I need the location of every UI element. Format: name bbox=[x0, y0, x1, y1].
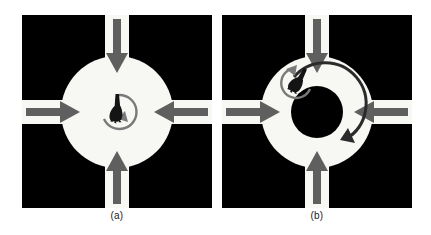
panel-a-caption: (a) bbox=[22, 210, 212, 221]
central-island bbox=[291, 86, 343, 138]
panel-a bbox=[22, 15, 212, 208]
panel-b-caption: (b) bbox=[222, 210, 412, 221]
panel-a-graphic bbox=[22, 15, 212, 208]
panel-b bbox=[222, 15, 412, 208]
figure-container: (a) bbox=[0, 0, 431, 235]
panel-b-graphic bbox=[222, 15, 412, 208]
